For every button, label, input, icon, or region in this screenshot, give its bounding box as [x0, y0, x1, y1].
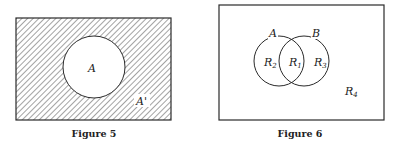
- region-r4-label: R4: [344, 85, 358, 99]
- figure-6: A B R2 R1 R3 R4 Figure 6: [219, 5, 384, 139]
- complement-label: A': [135, 95, 147, 108]
- region-r1-label: R1: [288, 56, 302, 70]
- venn-diagrams: A A' Figure 5 A B R2 R1 R3 R4 Figure 6: [0, 0, 398, 143]
- figure-6-caption: Figure 6: [278, 128, 323, 139]
- region-r2-label: R2: [263, 56, 277, 70]
- set-a-label: A: [268, 27, 277, 40]
- region-r3-label: R3: [313, 56, 327, 70]
- set-a-label: A: [87, 62, 96, 75]
- figure-5-caption: Figure 5: [72, 128, 117, 139]
- set-b-label: B: [311, 27, 320, 40]
- figure-5: A A' Figure 5: [16, 18, 171, 139]
